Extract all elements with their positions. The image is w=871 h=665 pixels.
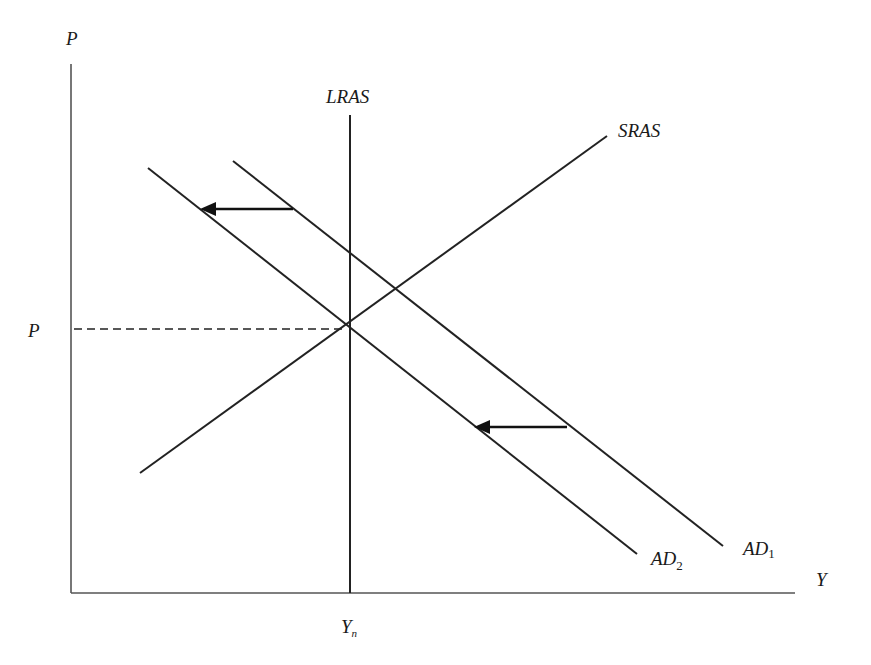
arrowhead-left-icon [200, 202, 216, 216]
y-axis-label: P [65, 28, 78, 49]
price-tick-label: P [27, 320, 40, 341]
natural-output-label: Yn [341, 616, 358, 639]
sras-label: SRAS [618, 120, 661, 141]
shift-arrow-lower [474, 420, 567, 434]
sras-curve [140, 136, 607, 473]
ad-as-chart: P Y P LRAS SRAS AD1 AD2 Yn [0, 0, 871, 665]
x-axis-label: Y [816, 569, 829, 590]
lras-label: LRAS [325, 86, 370, 107]
ad1-label: AD1 [741, 538, 775, 561]
shift-arrow-upper [200, 202, 293, 216]
ad2-curve [148, 168, 637, 554]
ad2-label: AD2 [649, 548, 683, 573]
